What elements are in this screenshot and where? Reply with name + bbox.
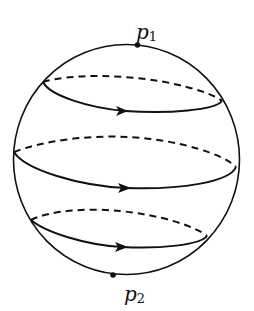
sphere-outline xyxy=(14,45,240,275)
lower-loop-back-dashed xyxy=(31,210,207,236)
lower-loop-front xyxy=(31,220,207,248)
upper-loop-front xyxy=(43,82,222,112)
middle-loop xyxy=(14,137,236,193)
upper-loop-back-dashed xyxy=(43,76,222,101)
middle-loop-front xyxy=(14,152,236,188)
label-p2-subscript: 2 xyxy=(137,291,145,306)
label-p1: p1 xyxy=(136,22,157,43)
point-p2 xyxy=(110,272,116,278)
label-p2: p2 xyxy=(124,284,145,305)
middle-loop-back-dashed xyxy=(14,137,236,167)
label-p1-subscript: 1 xyxy=(149,29,157,44)
lower-loop xyxy=(31,210,207,252)
label-p2-text: p xyxy=(124,282,137,306)
sphere-diagram xyxy=(0,0,254,311)
upper-loop xyxy=(43,76,222,116)
label-p1-text: p xyxy=(136,20,149,44)
